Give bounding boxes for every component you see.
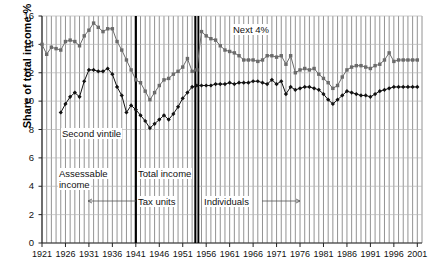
series-marker — [68, 38, 71, 41]
series-marker — [364, 93, 368, 97]
series-inline-label: Next 4% — [232, 24, 270, 35]
series-marker — [392, 60, 395, 63]
series-marker — [284, 63, 287, 66]
series-marker — [209, 83, 213, 87]
series-marker — [176, 70, 179, 73]
series-marker — [402, 58, 405, 61]
series-marker — [45, 53, 48, 56]
series-marker — [97, 26, 100, 29]
series-marker — [195, 68, 198, 71]
series-marker — [204, 34, 207, 37]
series-marker — [87, 68, 91, 72]
series-marker — [162, 78, 165, 81]
series-marker — [199, 83, 203, 87]
series-marker — [307, 85, 311, 89]
series-marker — [416, 58, 419, 61]
series-marker — [350, 65, 353, 68]
series-marker — [270, 54, 273, 57]
series-marker — [303, 85, 307, 89]
series-marker — [378, 63, 381, 66]
series-marker — [158, 84, 161, 87]
series-marker — [134, 78, 137, 81]
period-annotation: Individuals — [203, 196, 250, 207]
series-marker — [331, 87, 334, 90]
series-marker — [181, 65, 184, 68]
period-annotation: income — [58, 179, 91, 190]
series-marker — [260, 81, 264, 85]
y-tick-label: 12 — [8, 67, 34, 78]
income-share-chart: Share of total income % 0246810121416192… — [0, 0, 429, 277]
series-marker — [308, 68, 311, 71]
series-marker — [144, 89, 147, 92]
series-marker — [115, 40, 118, 43]
y-tick-label: 0 — [8, 237, 34, 248]
series-marker — [78, 44, 81, 47]
y-tick-label: 8 — [8, 124, 34, 135]
series-marker — [251, 79, 255, 83]
y-tick-label: 6 — [8, 152, 34, 163]
series-marker — [83, 34, 86, 37]
series-marker — [383, 58, 386, 61]
y-tick-label: 14 — [8, 38, 34, 49]
series-marker — [280, 54, 283, 57]
series-marker — [59, 110, 63, 114]
series-marker — [387, 51, 390, 54]
series-marker — [120, 93, 124, 97]
series-marker — [190, 70, 193, 73]
series-marker — [219, 44, 222, 47]
period-annotation: Total income — [137, 168, 192, 179]
series-marker — [232, 82, 236, 86]
series-marker — [261, 58, 264, 61]
series-marker — [82, 79, 86, 83]
series-marker — [298, 86, 302, 90]
series-marker — [200, 30, 203, 33]
series-marker — [246, 81, 250, 85]
series-marker — [153, 91, 156, 94]
series-marker — [326, 81, 329, 84]
series-marker — [125, 58, 128, 61]
series-marker — [64, 40, 67, 43]
series-marker — [247, 58, 250, 61]
series-marker — [129, 68, 132, 71]
series-marker — [411, 58, 414, 61]
series-marker — [59, 48, 62, 51]
series-marker — [354, 92, 358, 96]
series-marker — [345, 68, 348, 71]
series-marker — [382, 88, 386, 92]
series-marker — [223, 48, 226, 51]
series-marker — [92, 68, 96, 72]
series-marker — [359, 93, 363, 97]
y-tick-label: 10 — [8, 95, 34, 106]
series-marker — [237, 54, 240, 57]
series-marker — [415, 85, 419, 89]
series-marker — [359, 64, 362, 67]
series-marker — [218, 82, 222, 86]
y-tick-label: 16 — [8, 10, 34, 21]
series-marker — [312, 67, 315, 70]
series-marker — [294, 71, 297, 74]
series-inline-label: Second vintile — [61, 128, 122, 139]
series-marker — [242, 58, 245, 61]
series-marker — [364, 65, 367, 68]
series-marker — [228, 81, 232, 85]
series-marker — [406, 85, 410, 89]
series-marker — [223, 82, 227, 86]
series-marker — [322, 77, 325, 80]
series-marker — [213, 82, 217, 86]
series-marker — [167, 77, 170, 80]
y-tick-label: 2 — [8, 209, 34, 220]
series-marker — [242, 81, 246, 85]
series-marker — [298, 68, 301, 71]
series-marker — [172, 72, 175, 75]
series-marker — [341, 75, 344, 78]
series-marker — [92, 21, 95, 24]
series-marker — [251, 58, 254, 61]
series-marker — [87, 28, 90, 31]
period-annotation: Assessable — [58, 168, 109, 179]
series-marker — [401, 85, 405, 89]
series-marker — [289, 54, 292, 57]
series-marker — [392, 85, 396, 89]
series-marker — [373, 64, 376, 67]
series-marker — [350, 91, 354, 95]
series-marker — [54, 47, 57, 50]
